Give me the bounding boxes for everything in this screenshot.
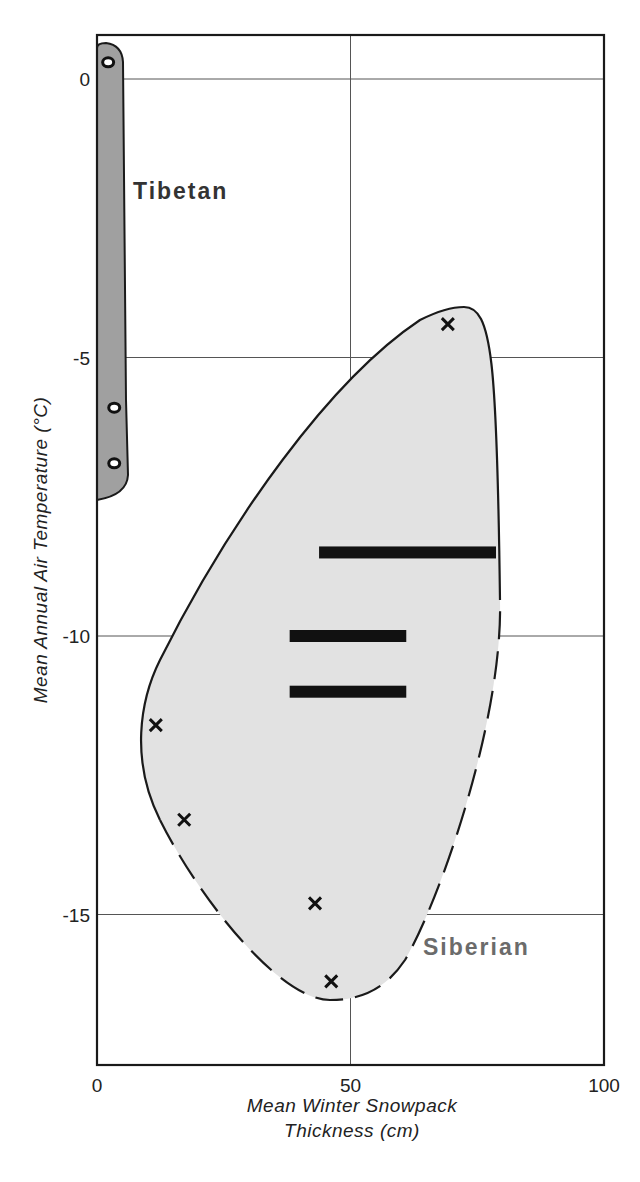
y-tick-label: -15 <box>63 905 90 926</box>
circle-marker <box>109 403 120 412</box>
y-tick-label: 0 <box>79 69 90 90</box>
x-tick-label: 100 <box>588 1075 620 1096</box>
y-tick-label: -10 <box>63 626 90 647</box>
chart: 0501000-5-10-15 Tibetan Siberian Mean Wi… <box>0 0 640 1182</box>
siberian-label: Siberian <box>423 934 530 960</box>
range-bar <box>290 630 407 642</box>
range-bar <box>290 686 407 698</box>
tibetan-label: Tibetan <box>133 178 228 204</box>
x-axis-label-line2: Thickness (cm) <box>284 1120 420 1141</box>
circle-marker <box>103 58 114 67</box>
tibetan-region <box>97 43 128 500</box>
y-axis-label: Mean Annual Air Temperature (°C) <box>30 397 51 704</box>
x-tick-label: 0 <box>92 1075 103 1096</box>
x-axis-label-line1: Mean Winter Snowpack <box>247 1095 458 1116</box>
circle-marker <box>109 459 120 468</box>
x-tick-label: 50 <box>340 1075 361 1096</box>
range-bar <box>319 546 496 558</box>
y-tick-label: -5 <box>73 348 90 369</box>
